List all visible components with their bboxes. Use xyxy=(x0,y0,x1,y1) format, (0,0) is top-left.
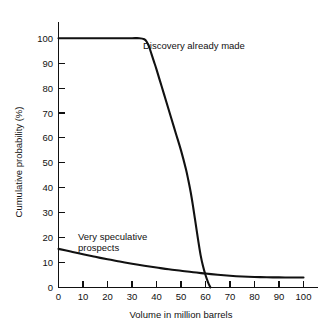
y-tick-label: 70 xyxy=(42,108,53,119)
x-tick-label: 80 xyxy=(249,291,260,302)
y-tick-label: 90 xyxy=(42,58,53,69)
x-tick-label: 100 xyxy=(296,291,312,302)
y-tick-label: 50 xyxy=(42,157,53,168)
y-tick-label: 20 xyxy=(42,232,53,243)
x-tick-label: 40 xyxy=(151,291,162,302)
x-axis-title: Volume in million barrels xyxy=(130,309,233,320)
y-axis-title: Cumulative probability (%) xyxy=(13,107,24,218)
x-tick-label: 10 xyxy=(78,291,89,302)
x-axis-ticks xyxy=(59,281,304,288)
x-tick-label: 60 xyxy=(200,291,211,302)
chart-canvas: 0 10 20 30 40 50 60 70 80 90 100 0 10 20… xyxy=(0,0,332,336)
y-tick-label: 100 xyxy=(37,33,53,44)
y-axis-tick-labels: 0 10 20 30 40 50 60 70 80 90 100 xyxy=(37,33,53,293)
x-tick-label: 30 xyxy=(127,291,138,302)
x-tick-label: 50 xyxy=(176,291,187,302)
y-tick-label: 0 xyxy=(48,282,53,293)
y-tick-label: 80 xyxy=(42,83,53,94)
y-tick-label: 40 xyxy=(42,182,53,193)
series-line-very-speculative-prospects xyxy=(59,249,304,278)
y-tick-label: 60 xyxy=(42,132,53,143)
annotation-speculative-line1: Very speculative xyxy=(78,231,147,242)
annotation-very-speculative-prospects: Very speculative prospects xyxy=(78,231,147,253)
chart-figure: 0 10 20 30 40 50 60 70 80 90 100 0 10 20… xyxy=(0,0,332,336)
x-axis-tick-labels: 0 10 20 30 40 50 60 70 80 90 100 xyxy=(56,291,312,302)
y-tick-label: 30 xyxy=(42,207,53,218)
x-tick-label: 20 xyxy=(102,291,113,302)
annotation-discovery-already-made: Discovery already made xyxy=(143,40,245,51)
x-tick-label: 0 xyxy=(56,291,61,302)
annotation-speculative-line2: prospects xyxy=(78,242,119,253)
y-tick-label: 10 xyxy=(42,257,53,268)
x-tick-label: 70 xyxy=(225,291,236,302)
x-tick-label: 90 xyxy=(274,291,285,302)
